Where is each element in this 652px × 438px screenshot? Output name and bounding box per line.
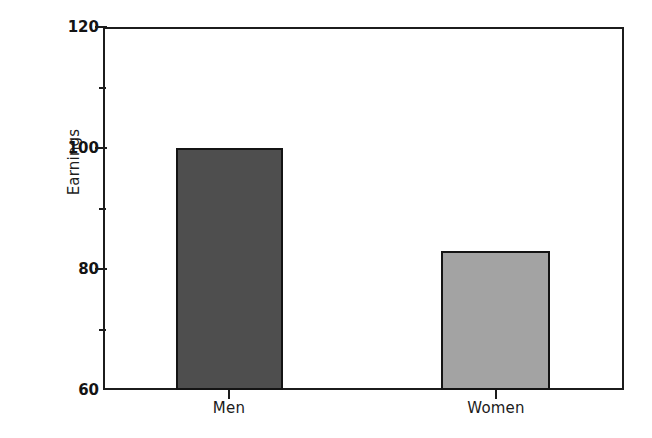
bar-women [441, 251, 550, 390]
y-axis-title: Earnings [65, 102, 89, 222]
y-tick-mark-80 [95, 268, 107, 270]
y-tick-label-100: 100 [53, 141, 99, 156]
y-tick-mark-100 [95, 147, 107, 149]
x-tick-label-women: Women [416, 399, 576, 417]
y-tick-label-120: 120 [53, 20, 99, 35]
bar-men [176, 148, 283, 390]
x-tick-mark-women [495, 390, 497, 399]
y-tick-label-60: 60 [53, 383, 99, 398]
x-tick-label-men: Men [149, 399, 309, 417]
bar-chart: Earnings 120 100 80 60 Men Women [0, 0, 652, 438]
y-tick-mark-110 [99, 87, 106, 89]
y-tick-label-80: 80 [53, 262, 99, 277]
y-tick-mark-70 [99, 329, 106, 331]
x-tick-mark-men [228, 390, 230, 399]
y-tick-mark-90 [99, 208, 106, 210]
y-tick-mark-120 [95, 26, 107, 28]
